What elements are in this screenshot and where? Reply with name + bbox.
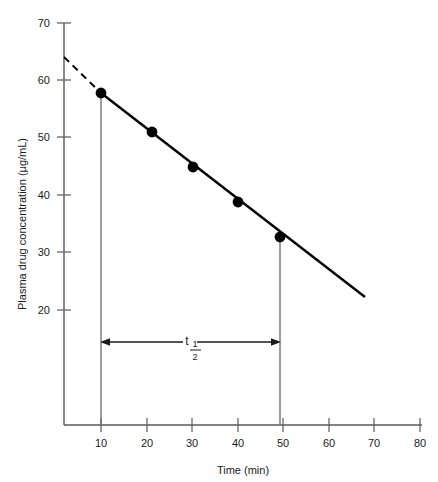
half-life-label-denominator: 2 xyxy=(192,352,197,362)
y-axis-tick-labels: 70 60 50 40 30 20 xyxy=(38,17,50,316)
y-tick-label-70: 70 xyxy=(38,17,50,29)
x-tick-label-40: 40 xyxy=(232,437,244,449)
data-point xyxy=(147,127,158,138)
data-point xyxy=(188,162,199,173)
x-tick-label-50: 50 xyxy=(277,437,289,449)
y-tick-label-50: 50 xyxy=(38,131,50,143)
y-tick-label-60: 60 xyxy=(38,74,50,86)
y-tick-label-30: 30 xyxy=(38,246,50,258)
x-tick-label-70: 70 xyxy=(368,437,380,449)
plasma-concentration-chart: 70 60 50 40 30 20 10 20 30 40 50 60 70 xyxy=(0,0,438,482)
half-life-annotation: t 1 2 xyxy=(100,333,281,362)
x-tick-label-20: 20 xyxy=(141,437,153,449)
y-axis-title: Plasma drug concentration (µg/mL) xyxy=(16,138,28,310)
y-tick-label-20: 20 xyxy=(38,304,50,316)
x-axis-tick-labels: 10 20 30 40 50 60 70 80 xyxy=(95,437,426,449)
x-tick-label-30: 30 xyxy=(186,437,198,449)
regression-line xyxy=(101,93,365,297)
chart-container: 70 60 50 40 30 20 10 20 30 40 50 60 70 xyxy=(0,0,438,482)
y-tick-label-40: 40 xyxy=(38,189,50,201)
data-point xyxy=(233,197,244,208)
drop-lines xyxy=(101,93,280,425)
data-point xyxy=(96,88,107,99)
x-tick-label-80: 80 xyxy=(414,437,426,449)
x-tick-label-60: 60 xyxy=(323,437,335,449)
half-life-label-numerator: 1 xyxy=(192,339,197,349)
axis-lines xyxy=(64,23,422,425)
extrapolation-dashed-line xyxy=(64,57,101,93)
x-tick-label-10: 10 xyxy=(95,437,107,449)
x-axis-title: Time (min) xyxy=(217,464,269,476)
data-point xyxy=(275,232,286,243)
